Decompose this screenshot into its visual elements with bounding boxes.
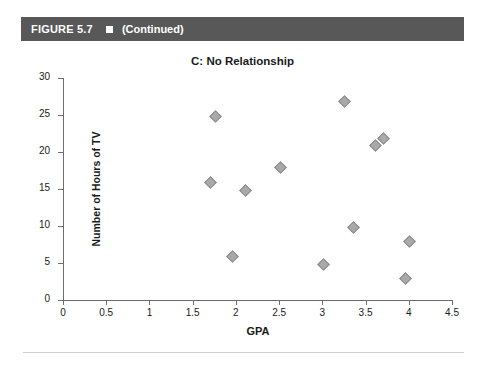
y-axis-tick-label: 25 — [39, 108, 50, 119]
y-axis-tick: 10 — [58, 226, 63, 227]
x-axis-line — [63, 300, 453, 301]
x-axis-tick: 2.5 — [279, 300, 280, 305]
scatter-chart: C: No Relationship Number of Hours of TV… — [0, 0, 485, 368]
data-point — [226, 250, 239, 263]
x-axis-tick: 4 — [409, 300, 410, 305]
x-axis-tick: 0.5 — [106, 300, 107, 305]
x-axis-tick: 2 — [236, 300, 237, 305]
data-point — [403, 235, 416, 248]
x-axis-tick-label: 3 — [307, 307, 337, 318]
data-point — [274, 161, 287, 174]
x-axis-tick-label: 3.5 — [351, 307, 381, 318]
y-axis-title: Number of Hours of TV — [90, 132, 102, 247]
x-axis-tick: 3 — [322, 300, 323, 305]
x-axis-tick-label: 0 — [48, 307, 78, 318]
x-axis-tick-label: 4.5 — [437, 307, 467, 318]
y-axis-tick: 15 — [58, 189, 63, 190]
data-point — [339, 95, 352, 108]
y-axis-tick: 30 — [58, 78, 63, 79]
x-axis-tick-label: 1.5 — [178, 307, 208, 318]
x-axis-tick-label: 4 — [394, 307, 424, 318]
y-axis-tick: 20 — [58, 152, 63, 153]
x-axis-tick: 1.5 — [193, 300, 194, 305]
x-axis-tick-label: 2.5 — [264, 307, 294, 318]
data-point — [317, 258, 330, 271]
x-axis-tick: 0 — [63, 300, 64, 305]
data-point — [239, 184, 252, 197]
plot-area: Number of Hours of TV 051015202530 00.51… — [63, 78, 452, 300]
y-axis-tick-label: 10 — [39, 219, 50, 230]
x-axis-tick-label: 1 — [134, 307, 164, 318]
x-axis-tick-label: 0.5 — [91, 307, 121, 318]
x-axis-title: GPA — [63, 325, 453, 337]
y-axis-tick-label: 30 — [39, 71, 50, 82]
y-axis-tick-label: 20 — [39, 145, 50, 156]
x-axis-tick-label: 2 — [221, 307, 251, 318]
data-point — [347, 221, 360, 234]
y-axis-tick: 25 — [58, 115, 63, 116]
y-axis-tick: 5 — [58, 263, 63, 264]
x-axis-tick: 4.5 — [452, 300, 453, 305]
data-point — [205, 176, 218, 189]
chart-title: C: No Relationship — [0, 55, 485, 67]
footer-divider — [23, 352, 464, 353]
x-axis-tick: 1 — [149, 300, 150, 305]
y-axis-tick-label: 5 — [44, 256, 50, 267]
x-axis-tick: 3.5 — [366, 300, 367, 305]
data-point — [209, 110, 222, 123]
y-axis-tick-label: 0 — [44, 293, 50, 304]
y-axis-tick-label: 15 — [39, 182, 50, 193]
data-point — [399, 272, 412, 285]
